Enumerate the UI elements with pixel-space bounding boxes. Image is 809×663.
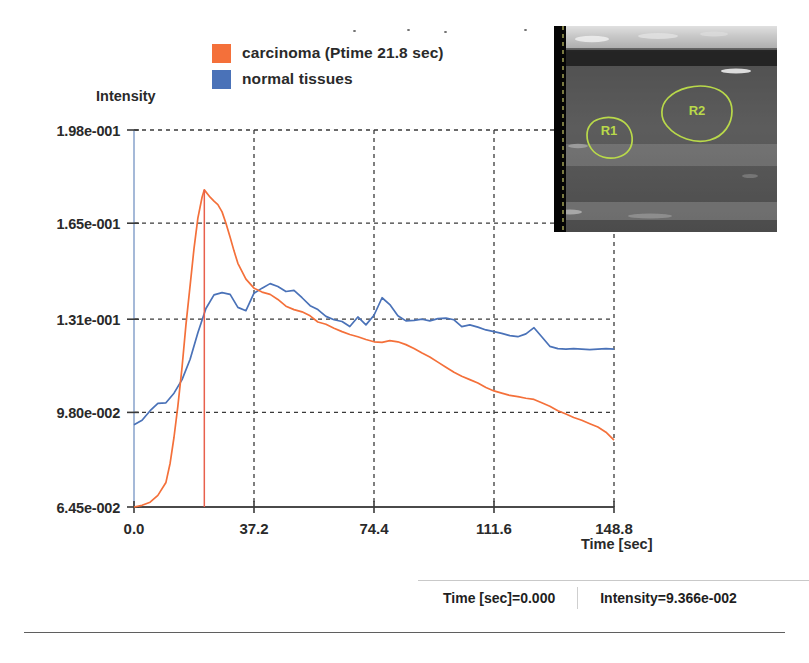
y-tick-label: 1.65e-001: [56, 216, 120, 232]
y-tick-label: 1.98e-001: [56, 123, 120, 139]
status-intensity-value: Intensity=9.366e-002: [600, 590, 737, 606]
y-axis-ticks: [127, 130, 139, 507]
ultrasound-inset-image[interactable]: R1 R2: [554, 26, 777, 232]
bottom-separator-rule: [24, 632, 785, 633]
y-tick-label: 6.45e-002: [56, 500, 120, 516]
x-tick-label: 148.8: [595, 520, 633, 537]
x-tick-label: 111.6: [476, 520, 512, 537]
status-time-value: Time [sec]=0.000: [443, 590, 555, 606]
roi-label-r1: R1: [601, 123, 618, 138]
status-bar: Time [sec]=0.000 Intensity=9.366e-002: [418, 580, 809, 614]
x-tick-label: 37.2: [239, 520, 268, 537]
roi-label-r2: R2: [689, 103, 706, 118]
y-tick-label: 9.80e-002: [56, 405, 120, 421]
status-divider: [577, 587, 578, 609]
y-tick-label: 1.31e-001: [56, 312, 120, 328]
ultrasound-svg: R1 R2: [554, 26, 777, 232]
y-axis-tick-labels: 1.98e-0011.65e-0011.31e-0019.80e-0026.45…: [56, 123, 120, 516]
x-tick-label: 0.0: [124, 520, 145, 537]
x-axis-tick-labels: 0.037.274.4111.6148.8: [124, 520, 633, 537]
x-tick-label: 74.4: [359, 520, 389, 537]
